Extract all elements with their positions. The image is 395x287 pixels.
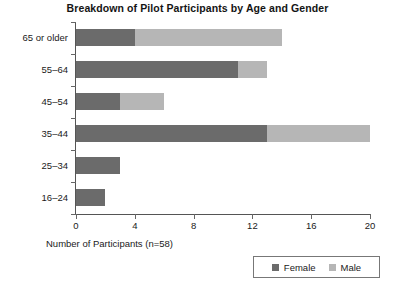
bar-row: 45‒54 xyxy=(76,86,370,118)
bar-segment-female xyxy=(76,189,105,206)
bar-segment-female xyxy=(76,93,120,110)
legend-swatch-icon xyxy=(329,264,336,271)
stacked-bar xyxy=(76,61,267,78)
plot-area: 048121620 65 or older55‒6445‒5435‒4425‒3… xyxy=(76,22,370,214)
x-tick-mark xyxy=(252,214,253,219)
y-axis-category-label: 55‒64 xyxy=(42,61,68,78)
x-tick-mark xyxy=(370,214,371,219)
legend-entry-male[interactable]: Male xyxy=(329,262,362,273)
bar-segment-female xyxy=(76,61,238,78)
bar-segment-male xyxy=(120,93,164,110)
bar-segment-male xyxy=(267,125,370,142)
bar-row: 65 or older xyxy=(76,22,370,54)
y-axis-category-label: 25‒34 xyxy=(42,157,68,174)
y-axis-category-label: 65 or older xyxy=(23,29,68,46)
x-tick-mark xyxy=(194,214,195,219)
bar-row: 55‒64 xyxy=(76,54,370,86)
x-tick-label: 12 xyxy=(247,220,258,231)
bar-row: 35‒44 xyxy=(76,118,370,150)
stacked-bar xyxy=(76,29,282,46)
y-axis-category-label: 35‒44 xyxy=(42,125,68,142)
x-tick-label: 8 xyxy=(191,220,196,231)
legend-label: Male xyxy=(341,262,362,273)
x-tick-mark xyxy=(76,214,77,219)
bar-segment-female xyxy=(76,157,120,174)
y-axis-category-label: 16‒24 xyxy=(42,189,68,206)
y-axis-category-label: 45‒54 xyxy=(42,93,68,110)
legend-label: Female xyxy=(284,262,316,273)
stacked-bar xyxy=(76,125,370,142)
stacked-bar xyxy=(76,189,105,206)
bar-row: 25‒34 xyxy=(76,150,370,182)
bar-chart-figure: Breakdown of Pilot Participants by Age a… xyxy=(0,0,395,287)
legend-swatch-icon xyxy=(272,264,279,271)
x-axis-title: Number of Participants (n=58) xyxy=(46,238,173,249)
stacked-bar xyxy=(76,157,120,174)
x-tick-label: 20 xyxy=(365,220,376,231)
chart-title: Breakdown of Pilot Participants by Age a… xyxy=(0,2,395,14)
stacked-bar xyxy=(76,93,164,110)
x-tick-label: 0 xyxy=(73,220,78,231)
legend-entry-female[interactable]: Female xyxy=(272,262,316,273)
x-tick-mark xyxy=(135,214,136,219)
bar-segment-female xyxy=(76,125,267,142)
bar-segment-male xyxy=(238,61,267,78)
bar-segment-female xyxy=(76,29,135,46)
x-axis-line xyxy=(75,214,370,215)
bar-row: 16‒24 xyxy=(76,182,370,214)
bar-segment-male xyxy=(135,29,282,46)
x-tick-mark xyxy=(311,214,312,219)
chart-legend: FemaleMale xyxy=(253,256,380,278)
x-tick-label: 4 xyxy=(132,220,137,231)
x-tick-label: 16 xyxy=(306,220,317,231)
